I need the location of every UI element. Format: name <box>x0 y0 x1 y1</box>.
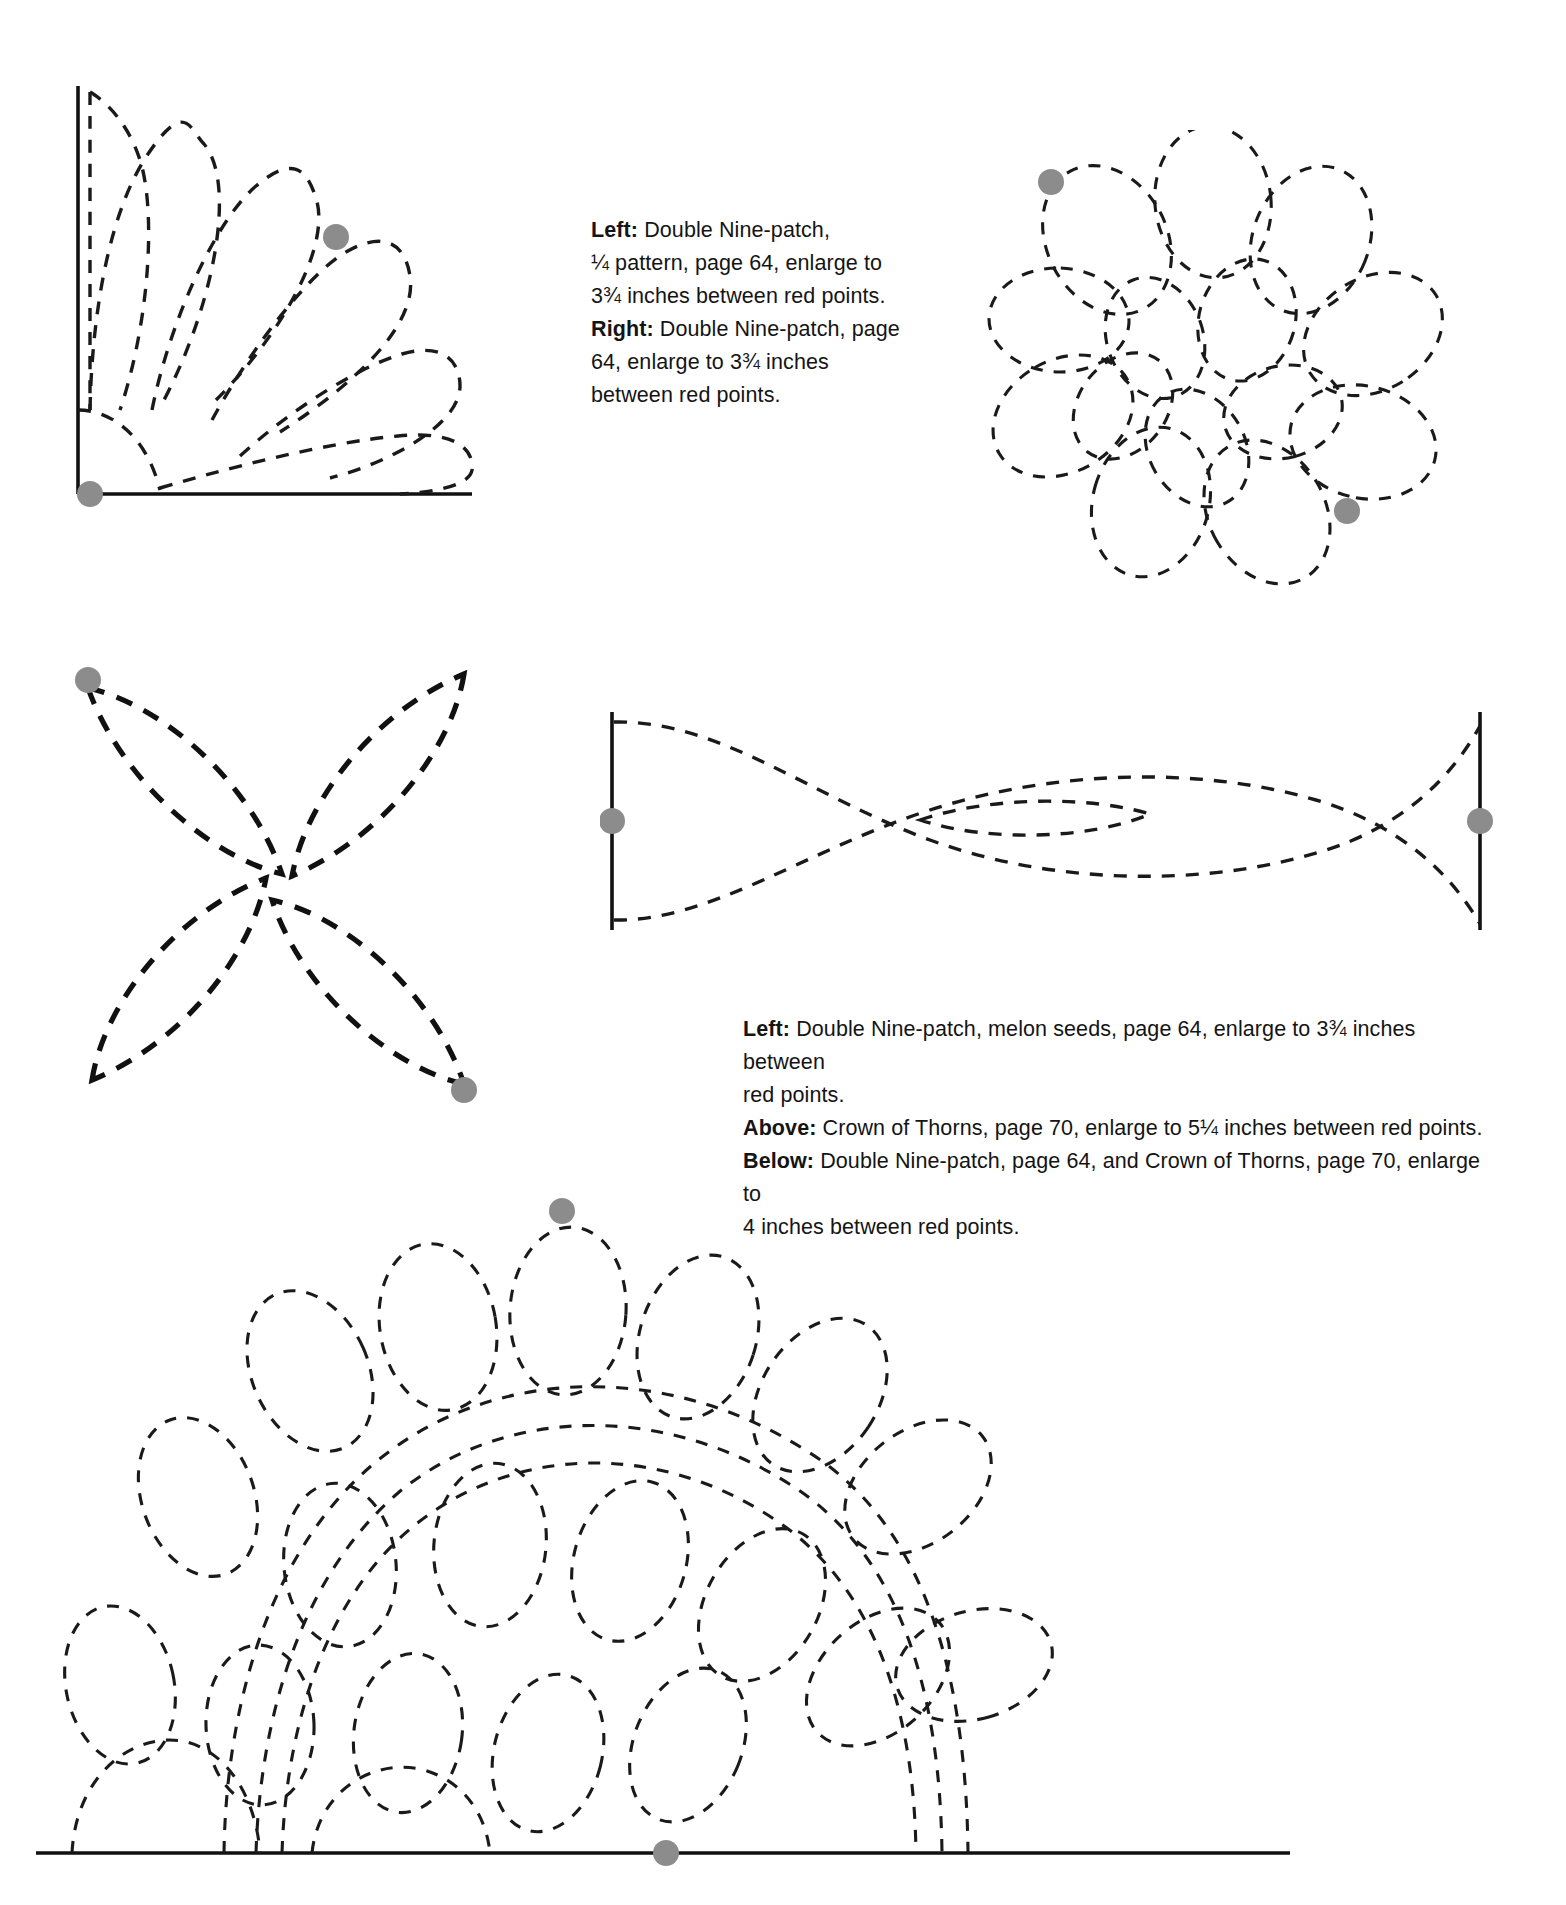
marker-dot-lower-right <box>451 1077 477 1103</box>
caption-top-text-3: 3¾ inches between red points. <box>591 284 886 308</box>
fan-hub-arc <box>78 410 160 490</box>
melon-petal-upper-right <box>292 674 464 876</box>
marker-dot-bottom <box>653 1840 679 1866</box>
marker-dot-right <box>1467 808 1493 834</box>
marker-dot-top <box>549 1198 575 1224</box>
caption-mid-lead-3: Above: <box>743 1116 816 1140</box>
border-crest-petal-4 <box>617 1239 779 1435</box>
border-crest-petal-6 <box>819 1392 1017 1581</box>
border-row2-petal-5 <box>673 1506 852 1704</box>
border-crest-petal-1 <box>223 1271 397 1472</box>
caption-mid-line-1: Left: Double Nine-patch, melon seeds, pa… <box>743 1013 1483 1079</box>
border-row3-petal-3 <box>343 1646 472 1819</box>
border-row2-petal-6 <box>780 1581 977 1774</box>
border-row3-petal-1 <box>51 1596 190 1775</box>
caption-top: Left: Double Nine-patch, ¼ pattern, page… <box>591 214 931 412</box>
marker-dot-upper-left <box>1038 169 1064 195</box>
marker-dot-top <box>323 224 349 250</box>
border-row2-petal-2 <box>276 1478 405 1653</box>
figure-combined-border <box>20 1185 1320 1885</box>
melon-petal-lower-right <box>272 900 464 1084</box>
crown-ribbon-upper <box>614 722 1480 876</box>
marker-dot-upper-left <box>75 667 101 693</box>
border-row2-petal-4 <box>554 1467 707 1656</box>
crown-ribbon-lower <box>614 777 1480 924</box>
caption-top-text-2: ¼ pattern, page 64, enlarge to <box>591 251 882 275</box>
caption-mid-text-1: Double Nine-patch, melon seeds, page 64,… <box>743 1017 1415 1074</box>
border-crest-petal-5 <box>725 1293 915 1497</box>
rosette-petal-8 <box>971 331 1155 502</box>
melon-seeds-drawing <box>60 660 530 1120</box>
border-base-arc-2 <box>312 1767 490 1853</box>
figure-full-rosette <box>955 130 1465 600</box>
figure-fan-quarter <box>40 70 510 530</box>
caption-top-line-2: ¼ pattern, page 64, enlarge to <box>591 247 931 280</box>
rosette-petal-6 <box>1179 417 1355 600</box>
pattern-page: Left: Double Nine-patch, ¼ pattern, page… <box>0 0 1566 1905</box>
border-row3-petal-4 <box>476 1662 619 1843</box>
marker-dot-lower-right <box>1334 498 1360 524</box>
melon-petal-upper-left <box>88 688 282 874</box>
rosette-petal-3 <box>1229 148 1393 332</box>
crown-of-thorns-drawing <box>600 700 1500 980</box>
border-row2-petal-7 <box>882 1591 1066 1739</box>
rosette-inner-petal-2 <box>1184 247 1310 393</box>
rosette-inner-petal-3 <box>1214 353 1353 471</box>
caption-top-line-5: 64, enlarge to 3¾ inches <box>591 346 931 379</box>
caption-top-text-4: Double Nine-patch, page <box>654 317 900 341</box>
caption-top-text-6: between red points. <box>591 383 781 407</box>
marker-dot-left <box>600 808 625 834</box>
marker-dot-bottom <box>77 481 103 507</box>
border-row3-petal-5 <box>608 1651 768 1840</box>
border-row2-petal-1 <box>117 1401 278 1593</box>
fan-petal-4 <box>212 241 411 432</box>
border-row2-petal-3 <box>426 1458 555 1633</box>
combined-border-drawing <box>20 1185 1320 1885</box>
rosette-inner-petal-5 <box>1053 333 1194 479</box>
rosette-petal-4 <box>1281 247 1465 420</box>
fan-quarter-drawing <box>40 70 510 530</box>
caption-top-line-6: between red points. <box>591 379 931 412</box>
caption-mid-line-3: Above: Crown of Thorns, page 70, enlarge… <box>743 1112 1483 1145</box>
fan-petal-6 <box>160 435 472 494</box>
rosette-drawing <box>955 130 1465 600</box>
border-crest-petal-3 <box>504 1223 631 1399</box>
caption-mid-lead-4: Below: <box>743 1149 814 1173</box>
caption-top-line-1: Left: Double Nine-patch, <box>591 214 931 247</box>
caption-mid-lead-1: Left: <box>743 1017 790 1041</box>
border-sweep-outer <box>224 1387 968 1853</box>
rosette-petal-5 <box>1278 370 1449 514</box>
fan-petal-5 <box>240 350 460 478</box>
figure-crown-of-thorns <box>600 700 1500 980</box>
caption-mid-text-2: red points. <box>743 1083 845 1107</box>
caption-top-text-1: Double Nine-patch, <box>638 218 830 242</box>
fan-petal-1-outer <box>90 92 149 410</box>
caption-mid-line-2: red points. <box>743 1079 1483 1112</box>
crown-center-melon-seed <box>920 801 1150 835</box>
caption-top-line-3: 3¾ inches between red points. <box>591 280 931 313</box>
melon-petal-lower-left <box>92 878 266 1080</box>
caption-mid-text-3: Crown of Thorns, page 70, enlarge to 5¼ … <box>816 1116 1482 1140</box>
figure-melon-seeds <box>60 660 530 1120</box>
caption-top-lead-4: Right: <box>591 317 654 341</box>
caption-top-line-4: Right: Double Nine-patch, page <box>591 313 931 346</box>
caption-top-text-5: 64, enlarge to 3¾ inches <box>591 350 829 374</box>
caption-top-lead-1: Left: <box>591 218 638 242</box>
border-crest-petal-2 <box>366 1234 509 1420</box>
